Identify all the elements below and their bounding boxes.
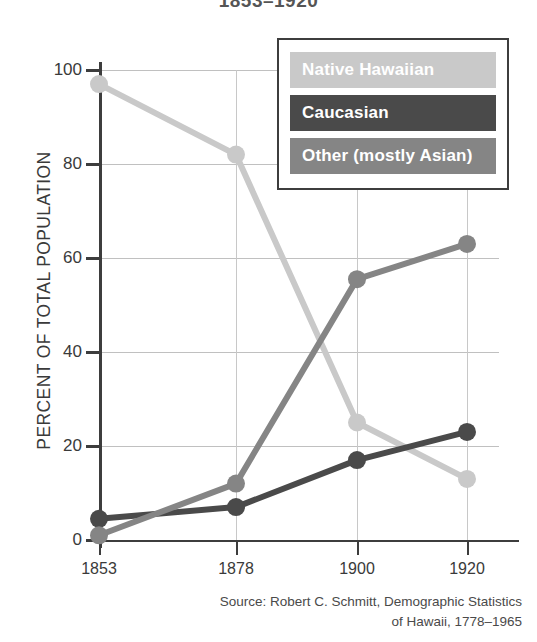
population-line-chart: 1853–1920 PERCENT OF TOTAL POPULATION 10… — [0, 0, 537, 642]
legend-label: Other (mostly Asian) — [302, 146, 473, 166]
data-point[interactable] — [227, 475, 245, 493]
data-point[interactable] — [227, 498, 245, 516]
data-point[interactable] — [348, 414, 366, 432]
series-line — [99, 432, 467, 519]
data-point[interactable] — [90, 526, 108, 544]
source-line: Source: Robert C. Schmitt, Demographic S… — [0, 592, 522, 612]
data-point[interactable] — [90, 510, 108, 528]
legend-item-caucasian[interactable]: Caucasian — [290, 95, 496, 131]
legend: Native Hawaiian Caucasian Other (mostly … — [277, 38, 509, 190]
data-point[interactable] — [90, 75, 108, 93]
data-point[interactable] — [458, 235, 476, 253]
legend-item-other[interactable]: Other (mostly Asian) — [290, 138, 496, 174]
source-line: of Hawaii, 1778–1965 — [0, 612, 522, 632]
legend-label: Native Hawaiian — [302, 60, 434, 80]
source-note: Source: Robert C. Schmitt, Demographic S… — [0, 592, 522, 631]
data-point[interactable] — [348, 270, 366, 288]
data-point[interactable] — [458, 470, 476, 488]
legend-label: Caucasian — [302, 103, 389, 123]
legend-item-native-hawaiian[interactable]: Native Hawaiian — [290, 52, 496, 88]
data-point[interactable] — [227, 146, 245, 164]
data-point[interactable] — [458, 423, 476, 441]
data-point[interactable] — [348, 451, 366, 469]
